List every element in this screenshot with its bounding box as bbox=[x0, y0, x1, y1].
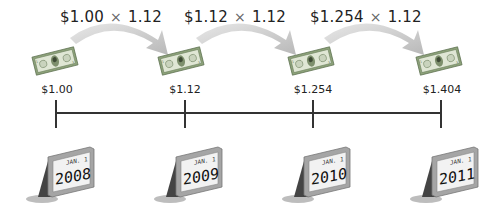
timeline-line bbox=[56, 112, 441, 114]
dollar-bill-icon bbox=[280, 46, 342, 76]
multiply-sign: × bbox=[110, 9, 122, 25]
timeline-tick bbox=[312, 100, 314, 128]
value-label: $1.12 bbox=[169, 83, 201, 96]
desk-calendar-icon: JAN. 1 2011 bbox=[404, 143, 482, 205]
multiply-sign: × bbox=[234, 9, 246, 25]
desk-calendar-icon: JAN. 1 2008 bbox=[20, 143, 98, 205]
formula-3: $1.254×1.12 bbox=[310, 8, 422, 26]
timeline-tick bbox=[440, 100, 442, 128]
calendar-2010: JAN. 1 2010 bbox=[276, 143, 354, 205]
formula-factor: 1.12 bbox=[128, 8, 162, 26]
formula-factor: 1.12 bbox=[388, 8, 422, 26]
formula-base: $1.12 bbox=[184, 8, 228, 26]
formula-base: $1.00 bbox=[60, 8, 104, 26]
dollar-bill-icon bbox=[150, 46, 212, 76]
value-label: $1.00 bbox=[41, 83, 73, 96]
desk-calendar-icon: JAN. 1 2009 bbox=[148, 143, 226, 205]
formula-1: $1.00×1.12 bbox=[60, 8, 162, 26]
formula-factor: 1.12 bbox=[252, 8, 286, 26]
timeline-tick bbox=[55, 100, 57, 128]
formula-base: $1.254 bbox=[310, 8, 364, 26]
multiply-sign: × bbox=[370, 9, 382, 25]
desk-calendar-icon: JAN. 1 2010 bbox=[276, 143, 354, 205]
calendar-2011: JAN. 1 2011 bbox=[404, 143, 482, 205]
dollar-bill-icon bbox=[24, 46, 86, 76]
dollar-bill-icon bbox=[408, 46, 470, 76]
timeline-tick bbox=[184, 100, 186, 128]
calendar-2009: JAN. 1 2009 bbox=[148, 143, 226, 205]
value-label: $1.404 bbox=[423, 83, 462, 96]
value-label: $1.254 bbox=[294, 83, 333, 96]
calendar-2008: JAN. 1 2008 bbox=[20, 143, 98, 205]
formula-2: $1.12×1.12 bbox=[184, 8, 286, 26]
